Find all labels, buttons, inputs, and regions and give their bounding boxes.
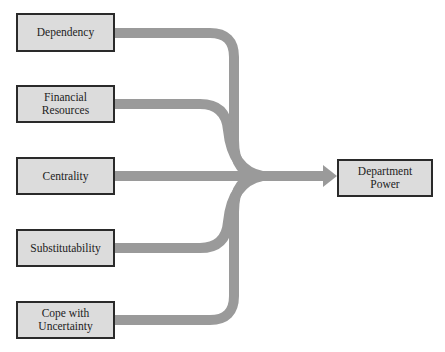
target-label: Department Power (350, 165, 420, 191)
target-box-department-power: Department Power (337, 159, 433, 197)
diagram-canvas: Dependency Financial Resources Centralit… (0, 0, 445, 352)
source-box-dependency: Dependency (16, 13, 115, 52)
source-label: Substitutability (30, 242, 100, 255)
source-label: Centrality (43, 170, 89, 183)
source-label: Dependency (37, 26, 94, 39)
source-label: Financial Resources (31, 91, 101, 117)
source-box-financial-resources: Financial Resources (16, 85, 115, 123)
flow-financial (114, 104, 262, 176)
source-box-centrality: Centrality (16, 157, 115, 195)
flow-centrality (114, 171, 325, 181)
source-box-cope-with-uncertainty: Cope with Uncertainty (16, 301, 115, 339)
arrowhead-icon (323, 165, 337, 187)
source-label: Cope with Uncertainty (31, 307, 101, 333)
source-box-substitutability: Substitutability (16, 229, 115, 267)
